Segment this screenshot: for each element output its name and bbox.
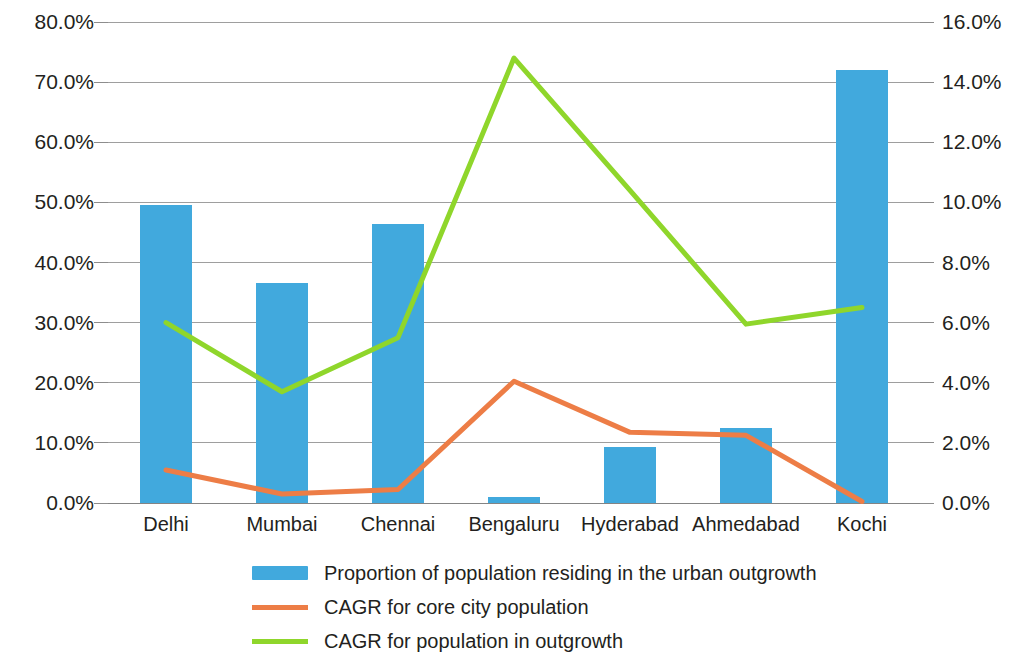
left-axis-tick	[94, 262, 108, 263]
category-label-kochi: Kochi	[782, 512, 942, 536]
left-axis-tick	[94, 442, 108, 443]
right-axis-tick-label: 12.0%	[942, 131, 1032, 152]
right-axis-tick	[920, 382, 934, 383]
left-axis-tick	[94, 22, 108, 23]
left-axis-tick-label: 20.0%	[0, 372, 94, 393]
left-axis-tick-label: 40.0%	[0, 252, 94, 273]
legend-swatch-icon	[252, 566, 308, 580]
left-axis-tick	[94, 322, 108, 323]
left-axis-tick-label: 50.0%	[0, 191, 94, 212]
left-axis-tick	[94, 503, 108, 504]
line-path	[166, 381, 862, 501]
legend-item[interactable]: CAGR for core city population	[252, 590, 892, 624]
right-axis-tick-label: 8.0%	[942, 252, 1032, 273]
legend-item[interactable]: Proportion of population residing in the…	[252, 556, 892, 590]
right-axis-tick-label: 0.0%	[942, 492, 1032, 513]
left-axis-tick	[94, 382, 108, 383]
right-axis-tick-label: 6.0%	[942, 312, 1032, 333]
line-path	[166, 58, 862, 392]
right-axis-tick-label: 2.0%	[942, 432, 1032, 453]
chart-legend: Proportion of population residing in the…	[252, 556, 892, 658]
right-axis-tick	[920, 142, 934, 143]
left-axis-tick-label: 80.0%	[0, 11, 94, 32]
left-axis-tick-label: 70.0%	[0, 71, 94, 92]
left-axis-tick-label: 10.0%	[0, 432, 94, 453]
plot-area	[108, 22, 920, 503]
left-axis-tick-label: 30.0%	[0, 312, 94, 333]
left-axis-tick	[94, 202, 108, 203]
left-axis-tick-label: 60.0%	[0, 131, 94, 152]
right-axis-tick	[920, 262, 934, 263]
left-axis-tick	[94, 142, 108, 143]
legend-line-icon	[252, 605, 308, 610]
right-axis-tick-label: 4.0%	[942, 372, 1032, 393]
right-axis-tick	[920, 202, 934, 203]
right-axis-tick	[920, 442, 934, 443]
right-axis-tick-label: 10.0%	[942, 191, 1032, 212]
right-axis-tick	[920, 322, 934, 323]
left-axis-tick	[94, 82, 108, 83]
legend-line-icon	[252, 639, 308, 644]
legend-label: CAGR for core city population	[324, 595, 589, 619]
legend-label: Proportion of population residing in the…	[324, 561, 817, 585]
right-axis-tick	[920, 503, 934, 504]
right-axis-tick	[920, 82, 934, 83]
right-axis-tick-label: 14.0%	[942, 71, 1032, 92]
right-axis-tick-label: 16.0%	[942, 11, 1032, 32]
combo-chart: 0.0%10.0%20.0%30.0%40.0%50.0%60.0%70.0%8…	[0, 0, 1032, 664]
left-axis-tick-label: 0.0%	[0, 492, 94, 513]
line-series	[108, 22, 920, 503]
legend-label: CAGR for population in outgrowth	[324, 629, 623, 653]
right-axis-tick	[920, 22, 934, 23]
legend-item[interactable]: CAGR for population in outgrowth	[252, 624, 892, 658]
